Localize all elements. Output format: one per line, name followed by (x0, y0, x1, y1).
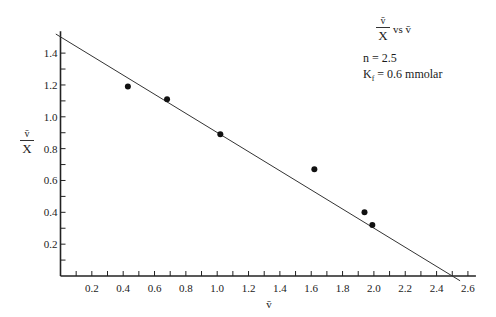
x-tick-label: 0.8 (179, 282, 193, 294)
x-tick-label: 0.6 (148, 282, 162, 294)
ticks (61, 53, 468, 276)
x-tick-label: 2.4 (430, 282, 444, 294)
x-tick-label: 1.0 (210, 282, 224, 294)
annotation-kf: Kf = 0.6 mmolar (363, 67, 442, 83)
x-tick-label: 1.8 (336, 282, 350, 294)
y-tick-label: 0.2 (44, 238, 58, 250)
y-axis-label-numerator: v̄ (20, 129, 34, 139)
data-point (125, 84, 131, 90)
x-tick-label: 0.4 (116, 282, 130, 294)
y-tick-label: 0.8 (44, 143, 58, 155)
data-point (164, 96, 170, 102)
annotation-n: n = 2.5 (363, 51, 397, 66)
x-tick-label: 2.0 (367, 282, 381, 294)
y-axis-label: v̄ X (20, 129, 34, 155)
scatchard-plot: 0.20.40.60.81.01.21.41.61.82.02.22.42.60… (0, 0, 496, 317)
x-axis-label: v̄ (266, 298, 272, 310)
x-tick-label: 1.2 (242, 282, 256, 294)
y-tick-label: 0.4 (44, 206, 58, 218)
annotation-kf-value: = 0.6 mmolar (374, 67, 442, 81)
tick-labels: 0.20.40.60.81.01.21.41.61.82.02.22.42.60… (44, 47, 476, 294)
title-numerator: v̄ (376, 16, 390, 26)
data-point (369, 222, 375, 228)
chart-title: v̄ X vs v̄ (376, 16, 411, 42)
x-tick-label: 1.4 (273, 282, 287, 294)
x-tick-label: 0.2 (85, 282, 99, 294)
title-suffix: vs v̄ (393, 23, 411, 35)
data-point (217, 131, 223, 137)
y-tick-label: 1.0 (44, 111, 58, 123)
annotation-kf-symbol: K (363, 67, 372, 81)
y-tick-label: 0.6 (44, 174, 58, 186)
y-tick-label: 1.2 (44, 79, 58, 91)
data-point (361, 209, 367, 215)
data-point (311, 166, 317, 172)
y-tick-label: 1.4 (44, 47, 58, 59)
title-denominator: X (376, 29, 390, 42)
x-tick-label: 2.2 (398, 282, 412, 294)
x-tick-label: 2.6 (461, 282, 475, 294)
x-tick-label: 1.6 (304, 282, 318, 294)
y-axis-label-denominator: X (20, 142, 34, 155)
